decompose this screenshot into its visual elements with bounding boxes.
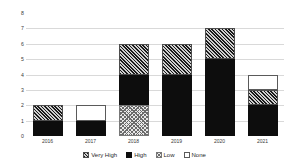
y-axis-tick-label: 0	[6, 133, 24, 139]
legend-swatch-icon	[126, 152, 132, 158]
legend-item[interactable]: Low	[156, 152, 175, 159]
bar-segment	[248, 90, 278, 105]
x-axis-tick-label: 2017	[71, 138, 111, 145]
y-axis-tick-label: 2	[6, 102, 24, 108]
legend-label: High	[134, 152, 146, 159]
legend-item[interactable]: High	[126, 152, 146, 159]
stacked-bar-chart: 012345678 201620172018201920202021 Very …	[0, 0, 289, 166]
bar-segment	[76, 105, 106, 120]
x-axis-tick-label: 2021	[243, 138, 283, 145]
legend-swatch-icon	[83, 152, 89, 158]
legend-item[interactable]: Very High	[83, 152, 117, 159]
bar-segment	[119, 44, 149, 75]
bar-segment	[205, 59, 235, 136]
y-axis-tick-label: 7	[6, 25, 24, 31]
y-axis-tick-label: 1	[6, 118, 24, 124]
bar-segment	[119, 105, 149, 136]
x-axis-tick-label: 2018	[114, 138, 154, 145]
y-axis-tick-label: 3	[6, 87, 24, 93]
x-axis-tick-label: 2019	[157, 138, 197, 145]
bar-segment	[76, 121, 106, 136]
bar-segment	[162, 75, 192, 137]
y-axis-tick-label: 6	[6, 41, 24, 47]
legend-label: Low	[164, 152, 175, 159]
legend-swatch-icon	[156, 152, 162, 158]
bar-segment	[119, 75, 149, 106]
legend-label: Very High	[91, 152, 117, 159]
bar-segment	[162, 44, 192, 75]
bar-segment	[248, 105, 278, 136]
y-axis: 012345678	[0, 13, 24, 136]
x-axis-tick-label: 2020	[200, 138, 240, 145]
bars-layer	[26, 13, 284, 136]
bar-segment	[33, 105, 63, 120]
bar-segment	[33, 121, 63, 136]
bar-segment	[248, 75, 278, 90]
chart-legend: Very HighHighLowNone	[0, 149, 289, 161]
y-axis-tick-label: 4	[6, 72, 24, 78]
y-axis-tick-label: 8	[6, 10, 24, 16]
legend-item[interactable]: None	[184, 152, 206, 159]
x-axis-tick-label: 2016	[28, 138, 68, 145]
legend-label: None	[192, 152, 206, 159]
legend-swatch-icon	[184, 152, 190, 158]
bar-segment	[205, 28, 235, 59]
y-axis-tick-label: 5	[6, 56, 24, 62]
